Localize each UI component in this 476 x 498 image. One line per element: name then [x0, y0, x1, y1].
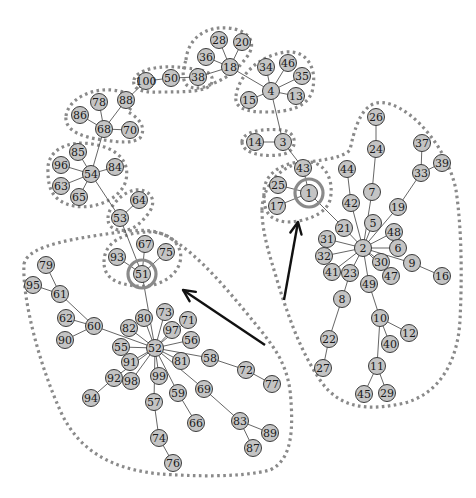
node-83[interactable]: 83 — [232, 413, 249, 430]
node-80[interactable]: 80 — [136, 310, 153, 327]
node-79[interactable]: 79 — [38, 257, 55, 274]
node-54[interactable]: 54 — [83, 166, 100, 183]
node-97[interactable]: 97 — [164, 322, 181, 339]
node-7[interactable]: 7 — [364, 184, 381, 201]
node-96[interactable]: 96 — [53, 157, 70, 174]
node-65[interactable]: 65 — [71, 189, 88, 206]
node-84[interactable]: 84 — [107, 159, 124, 176]
node-16[interactable]: 16 — [434, 268, 451, 285]
node-90[interactable]: 90 — [57, 332, 74, 349]
node-87[interactable]: 87 — [245, 440, 262, 457]
node-53[interactable]: 53 — [112, 210, 129, 227]
node-85[interactable]: 85 — [70, 144, 87, 161]
node-46[interactable]: 46 — [280, 55, 297, 72]
node-43[interactable]: 43 — [295, 160, 312, 177]
node-36[interactable]: 36 — [198, 49, 215, 66]
node-29[interactable]: 29 — [379, 385, 396, 402]
node-4[interactable]: 4 — [263, 83, 280, 100]
node-6[interactable]: 6 — [390, 240, 407, 257]
node-59[interactable]: 59 — [170, 385, 187, 402]
node-26[interactable]: 26 — [368, 109, 385, 126]
node-66[interactable]: 66 — [188, 415, 205, 432]
node-95[interactable]: 95 — [25, 277, 42, 294]
node-45[interactable]: 45 — [356, 386, 373, 403]
node-28[interactable]: 28 — [211, 32, 228, 49]
node-21[interactable]: 21 — [336, 220, 353, 237]
node-78[interactable]: 78 — [91, 94, 108, 111]
node-63[interactable]: 63 — [53, 178, 70, 195]
node-99[interactable]: 99 — [151, 368, 168, 385]
node-86[interactable]: 86 — [72, 107, 89, 124]
node-44[interactable]: 44 — [339, 161, 356, 178]
node-70[interactable]: 70 — [122, 122, 139, 139]
node-67[interactable]: 67 — [137, 236, 154, 253]
node-98[interactable]: 98 — [123, 373, 140, 390]
node-41[interactable]: 41 — [324, 264, 341, 281]
node-92[interactable]: 92 — [106, 370, 123, 387]
node-56[interactable]: 56 — [183, 332, 200, 349]
node-48[interactable]: 48 — [386, 224, 403, 241]
node-2[interactable]: 2 — [355, 240, 372, 257]
node-74[interactable]: 74 — [151, 430, 168, 447]
node-39[interactable]: 39 — [434, 155, 451, 172]
node-93[interactable]: 93 — [109, 249, 126, 266]
node-62[interactable]: 62 — [58, 310, 75, 327]
node-8[interactable]: 8 — [334, 291, 351, 308]
node-3[interactable]: 3 — [275, 134, 292, 151]
node-20[interactable]: 20 — [234, 34, 251, 51]
node-77[interactable]: 77 — [264, 376, 281, 393]
node-91[interactable]: 91 — [122, 354, 139, 371]
node-5[interactable]: 5 — [365, 215, 382, 232]
node-13[interactable]: 13 — [288, 88, 305, 105]
node-42[interactable]: 42 — [343, 195, 360, 212]
node-89[interactable]: 89 — [262, 425, 279, 442]
node-15[interactable]: 15 — [241, 92, 258, 109]
node-72[interactable]: 72 — [238, 362, 255, 379]
node-35[interactable]: 35 — [294, 68, 311, 85]
node-71[interactable]: 71 — [180, 312, 197, 329]
node-1[interactable]: 1 — [301, 185, 318, 202]
node-27[interactable]: 27 — [315, 360, 332, 377]
node-52[interactable]: 52 — [147, 340, 164, 357]
node-75[interactable]: 75 — [158, 244, 175, 261]
node-19[interactable]: 19 — [390, 199, 407, 216]
node-14[interactable]: 14 — [247, 134, 264, 151]
node-11[interactable]: 11 — [369, 358, 386, 375]
node-25[interactable]: 25 — [270, 177, 287, 194]
node-17[interactable]: 17 — [269, 198, 286, 215]
node-24[interactable]: 24 — [368, 141, 385, 158]
node-55[interactable]: 55 — [113, 339, 130, 356]
node-94[interactable]: 94 — [83, 390, 100, 407]
node-38[interactable]: 38 — [190, 69, 207, 86]
node-12[interactable]: 12 — [401, 325, 418, 342]
node-73[interactable]: 73 — [157, 304, 174, 321]
node-58[interactable]: 58 — [202, 350, 219, 367]
node-88[interactable]: 88 — [118, 92, 135, 109]
node-40[interactable]: 40 — [382, 336, 399, 353]
node-31[interactable]: 31 — [319, 231, 336, 248]
node-64[interactable]: 64 — [131, 192, 148, 209]
node-81[interactable]: 81 — [173, 353, 190, 370]
node-9[interactable]: 9 — [404, 255, 421, 272]
node-51[interactable]: 51 — [134, 266, 151, 283]
node-57[interactable]: 57 — [146, 394, 163, 411]
node-37[interactable]: 37 — [414, 135, 431, 152]
node-60[interactable]: 60 — [86, 318, 103, 335]
node-61[interactable]: 61 — [52, 286, 69, 303]
node-100[interactable]: 100 — [136, 73, 157, 90]
node-68[interactable]: 68 — [96, 121, 113, 138]
node-23[interactable]: 23 — [342, 265, 359, 282]
node-34[interactable]: 34 — [258, 59, 275, 76]
node-50[interactable]: 50 — [163, 70, 180, 87]
node-10[interactable]: 10 — [372, 310, 389, 327]
node-32[interactable]: 32 — [316, 248, 333, 265]
node-18[interactable]: 18 — [222, 59, 239, 76]
node-30[interactable]: 30 — [373, 254, 390, 271]
node-49[interactable]: 49 — [361, 276, 378, 293]
node-82[interactable]: 82 — [121, 320, 138, 337]
node-76[interactable]: 76 — [165, 455, 182, 472]
node-22[interactable]: 22 — [321, 331, 338, 348]
node-33[interactable]: 33 — [413, 165, 430, 182]
node-69[interactable]: 69 — [196, 381, 213, 398]
node-47[interactable]: 47 — [383, 268, 400, 285]
